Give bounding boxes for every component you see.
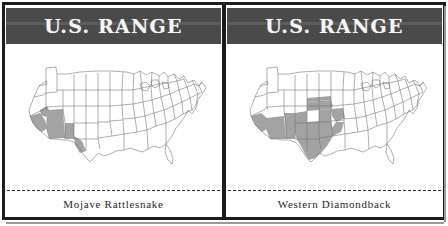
panel-caption-right: Western Diamondback bbox=[226, 191, 443, 217]
panel-caption-left: Mojave Rattlesnake bbox=[5, 191, 222, 217]
range-panel-mojave-rattlesnake: U.S. RANGE bbox=[5, 5, 224, 217]
us-range-figure: U.S. RANGE bbox=[0, 0, 448, 226]
map-area-right bbox=[227, 44, 442, 190]
range-panel-western-diamondback: U.S. RANGE bbox=[224, 5, 443, 217]
map-area-left bbox=[6, 44, 221, 190]
us-range-map-mojave-rattlesnake bbox=[16, 50, 212, 174]
panel-header-right: U.S. RANGE bbox=[227, 8, 442, 44]
species-name-western-diamondback: Western Diamondback bbox=[278, 198, 392, 210]
panel-title-left: U.S. RANGE bbox=[44, 17, 182, 36]
panel-container: U.S. RANGE bbox=[5, 5, 443, 217]
panel-title-right: U.S. RANGE bbox=[265, 17, 403, 36]
species-name-mojave-rattlesnake: Mojave Rattlesnake bbox=[63, 198, 163, 210]
panel-header-left: U.S. RANGE bbox=[6, 8, 221, 44]
us-range-map-western-diamondback bbox=[237, 50, 433, 174]
frame-shadow-right bbox=[444, 6, 446, 222]
frame-shadow-bottom bbox=[6, 222, 444, 224]
